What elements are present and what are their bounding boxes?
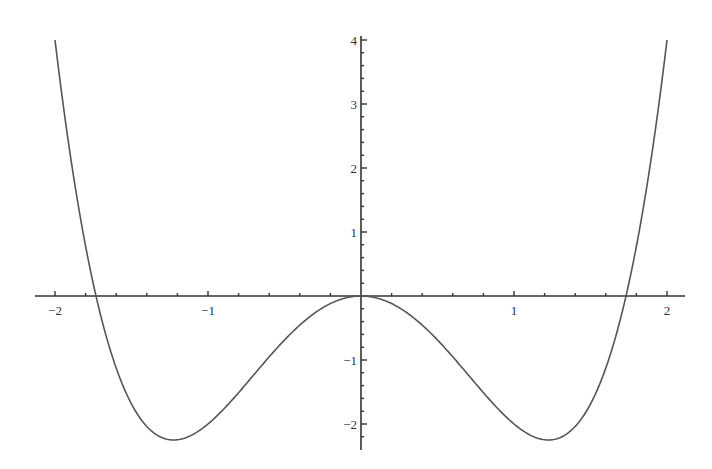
y-tick-label: 4 (351, 33, 358, 48)
x-tick-label: −2 (48, 303, 62, 318)
x-tick-label: 2 (664, 303, 671, 318)
y-tick-label: −2 (343, 417, 357, 432)
axes: −2−112 4321−1−2 (35, 33, 685, 450)
y-tick-label: 2 (351, 161, 358, 176)
y-tick-label: −1 (343, 353, 357, 368)
y-axis-ticks (361, 40, 367, 437)
function-plot: −2−112 4321−1−2 (0, 0, 712, 469)
x-tick-label: −1 (201, 303, 215, 318)
x-axis-tick-labels: −2−112 (48, 303, 670, 318)
y-tick-label: 3 (351, 97, 358, 112)
x-tick-label: 1 (511, 303, 518, 318)
y-axis-tick-labels: 4321−1−2 (343, 33, 357, 432)
y-tick-label: 1 (351, 225, 358, 240)
